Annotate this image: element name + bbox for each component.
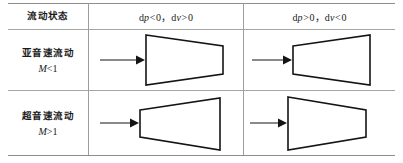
inflow-arrow-head bbox=[130, 119, 139, 128]
diagram-cell-supersonic-case-2 bbox=[244, 91, 395, 155]
row-label-supersonic: 超音速流动 M>1 bbox=[8, 91, 88, 155]
flow-state-table: 流动状态 dp<0，dv>0 dp>0，dv<0 亚音速流动 M<1 超音速流动… bbox=[0, 0, 403, 163]
mach-symbol-1: M bbox=[39, 63, 47, 74]
diagram-cell-subsonic-case-1 bbox=[89, 30, 243, 90]
table-bottom-border bbox=[8, 155, 395, 156]
row-label-text-supersonic: 超音速流动 bbox=[22, 109, 74, 124]
row-label-text-subsonic: 亚音速流动 bbox=[22, 46, 74, 61]
duct-outline-diverging bbox=[140, 98, 220, 150]
header-formula-case-1: dp<0，dv>0 bbox=[139, 9, 193, 24]
duct-outline-diverging bbox=[293, 35, 370, 85]
duct-outline-converging bbox=[146, 35, 223, 85]
diverging-duct-diagram bbox=[250, 31, 390, 89]
mach-value-2: 1 bbox=[52, 126, 57, 137]
inflow-arrow-head bbox=[136, 56, 145, 65]
diagram-cell-supersonic-case-1 bbox=[89, 91, 243, 155]
mach-value-1: 1 bbox=[52, 63, 57, 74]
header-cell-case-1: dp<0，dv>0 bbox=[89, 3, 243, 29]
header-formula-case-2: dp>0，dv<0 bbox=[292, 9, 346, 24]
converging-duct-diagram bbox=[96, 31, 236, 89]
zero-1b: 0 bbox=[188, 12, 193, 23]
separator-1: ， bbox=[161, 12, 171, 23]
duct-outline-converging bbox=[288, 97, 366, 150]
pressure-symbol-2: p bbox=[298, 12, 303, 23]
row-label-subsonic: 亚音速流动 M<1 bbox=[8, 30, 88, 90]
mach-condition-subsonic: M<1 bbox=[39, 63, 58, 74]
separator-2: ， bbox=[315, 12, 325, 23]
velocity-symbol-2: v bbox=[330, 12, 335, 23]
diverging-duct-diagram bbox=[96, 94, 236, 152]
relation-2a: > bbox=[303, 12, 310, 23]
zero-2b: 0 bbox=[341, 12, 346, 23]
diagram-cell-subsonic-case-2 bbox=[244, 30, 395, 90]
header-cell-case-2: dp>0，dv<0 bbox=[244, 3, 395, 29]
mach-condition-supersonic: M>1 bbox=[39, 126, 58, 137]
header-label-flow-state: 流动状态 bbox=[27, 9, 69, 24]
inflow-arrow-head bbox=[278, 119, 287, 128]
inflow-arrow-head bbox=[283, 56, 292, 65]
relation-1b: > bbox=[181, 12, 188, 23]
mach-symbol-2: M bbox=[39, 126, 47, 137]
header-cell-flow-state: 流动状态 bbox=[8, 3, 88, 29]
converging-duct-diagram bbox=[250, 94, 390, 152]
